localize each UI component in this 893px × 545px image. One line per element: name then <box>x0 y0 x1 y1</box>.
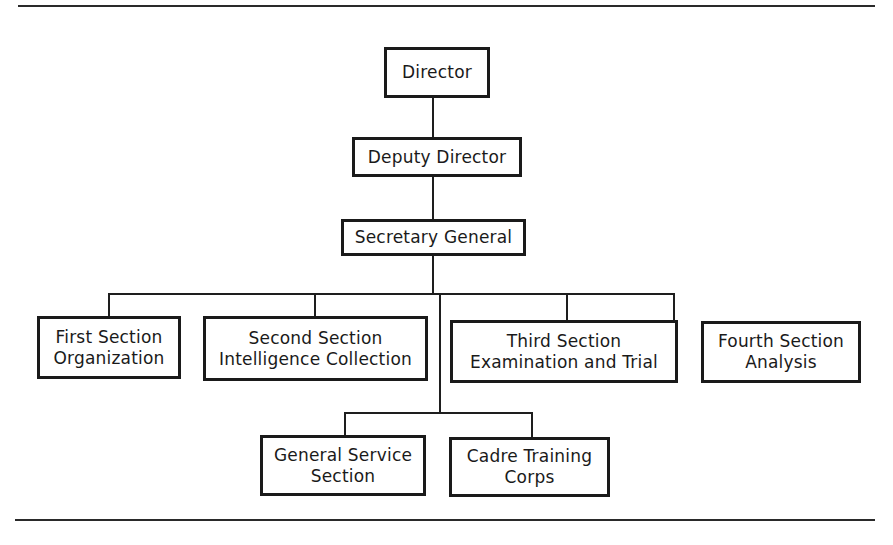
connector-gss <box>344 412 346 436</box>
node-label: Second Section <box>249 328 383 349</box>
node-secretary-general: Secretary General <box>341 219 526 256</box>
node-fourth-section: Fourth Section Analysis <box>701 321 861 383</box>
node-general-service-section: General Service Section <box>260 435 426 496</box>
node-label: Director <box>402 62 472 83</box>
node-second-section: Second Section Intelligence Collection <box>203 316 428 381</box>
bottom-rule <box>15 519 875 521</box>
node-sublabel: Organization <box>53 348 164 369</box>
node-first-section: First Section Organization <box>37 316 181 379</box>
node-sublabel: Examination and Trial <box>470 352 658 373</box>
node-sublabel: Section <box>311 466 376 487</box>
connector-second <box>314 293 316 318</box>
connector-third <box>566 293 568 321</box>
node-label: First Section <box>56 327 163 348</box>
node-label: Fourth Section <box>718 331 844 352</box>
node-sublabel: Corps <box>505 467 555 488</box>
node-sublabel: Analysis <box>745 352 817 373</box>
node-label: General Service <box>274 445 412 466</box>
node-label: Cadre Training <box>467 446 592 467</box>
node-cadre-training-corps: Cadre Training Corps <box>449 437 610 497</box>
connector-ctc <box>531 412 533 438</box>
section-bus <box>108 293 675 295</box>
node-label: Secretary General <box>355 227 513 248</box>
node-third-section: Third Section Examination and Trial <box>450 320 678 383</box>
connector-fourth <box>673 293 675 322</box>
node-deputy-director: Deputy Director <box>352 137 522 177</box>
lower-bus <box>344 412 533 414</box>
connector-first <box>108 293 110 318</box>
connector-secgen-bus <box>432 255 434 295</box>
node-label: Third Section <box>507 331 622 352</box>
node-director: Director <box>384 47 490 98</box>
node-label: Deputy Director <box>368 147 507 168</box>
node-sublabel: Intelligence Collection <box>219 349 412 370</box>
top-rule <box>18 5 875 7</box>
connector-deputy-secgen <box>432 176 434 220</box>
connector-director-deputy <box>432 97 434 137</box>
connector-lower-trunk <box>439 293 441 414</box>
